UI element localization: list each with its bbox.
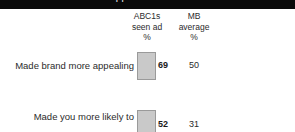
- row-label: Made you more likely to: [4, 108, 134, 132]
- chart-screenshot: cropped title banner ABC1s seen ad % MB …: [0, 0, 295, 132]
- row-label: Made brand more appealing: [4, 50, 134, 80]
- top-black-banner: cropped title banner: [0, 0, 295, 9]
- bar-abc1s: [137, 110, 156, 132]
- top-black-banner-text: cropped title banner: [0, 0, 295, 3]
- column-header-mb-average: MB average %: [167, 11, 221, 43]
- value-mb-average: 31: [172, 119, 216, 129]
- row-label-line1: Made you more likely to: [34, 111, 134, 122]
- column-header-mb-line1: MB: [167, 11, 221, 22]
- column-header-mb-line3: %: [167, 32, 221, 43]
- value-mb-average: 50: [172, 60, 216, 70]
- bar-abc1s: [137, 52, 156, 80]
- column-header-mb-line2: average: [167, 22, 221, 33]
- chart-row: Made you more likely to 52 31: [0, 108, 295, 132]
- chart-row: Made brand more appealing 69 50: [0, 50, 295, 80]
- row-label-line1: Made brand more appealing: [15, 60, 134, 71]
